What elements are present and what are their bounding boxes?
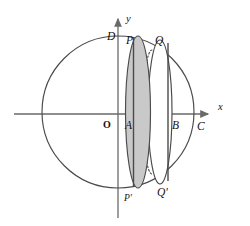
shaded-ellipse [126, 36, 151, 188]
point-label-b: B [172, 119, 179, 131]
point-label-c: C [197, 120, 205, 132]
geometry-figure: D P Q O A B C P' Q' x y [0, 0, 250, 226]
point-label-p-prime: P' [123, 193, 133, 203]
y-axis-label: y [125, 13, 131, 24]
x-axis-label: x [217, 101, 223, 112]
point-label-q-prime: Q' [157, 186, 168, 198]
point-label-p: P [125, 34, 133, 46]
point-label-q: Q [155, 34, 164, 46]
point-label-o: O [103, 119, 111, 130]
figure-canvas: D P Q O A B C P' Q' x y [0, 0, 250, 226]
point-label-d: D [106, 30, 116, 42]
point-label-a: A [124, 119, 133, 131]
